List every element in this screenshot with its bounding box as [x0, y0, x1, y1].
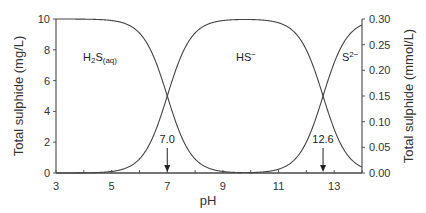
curve-h2s: [56, 19, 362, 173]
x-axis-title: pH: [200, 193, 217, 208]
y2-tick-label: 0.15: [369, 90, 390, 102]
y2-tick-label: 0.30: [369, 13, 390, 25]
curve-hs: [56, 19, 362, 172]
y2-tick-label: 0.25: [369, 39, 390, 51]
y-tick-label: 0: [44, 167, 50, 179]
y-tick-label: 8: [44, 44, 50, 56]
y2-tick-label: 0.10: [369, 116, 390, 128]
axes: 02468100.000.050.100.150.200.250.3035791…: [38, 13, 391, 192]
y-tick-label: 6: [44, 75, 50, 87]
y-tick-label: 2: [44, 136, 50, 148]
curves: [56, 19, 362, 173]
label-s2: S2−: [342, 50, 359, 63]
label-h2s: H2S(aq): [83, 51, 117, 65]
y2-tick-label: 0.00: [369, 167, 390, 179]
x-tick-label: 3: [53, 180, 59, 192]
y-axis-title: Total sulphide (mg/L): [11, 36, 26, 157]
x-tick-label: 7: [164, 180, 170, 192]
x-tick-label: 5: [109, 180, 115, 192]
x-tick-label: 13: [328, 180, 340, 192]
y-tick-label: 4: [44, 105, 50, 117]
y2-tick-label: 0.20: [369, 64, 390, 76]
pka1-label: 7.0: [160, 133, 175, 145]
y2-axis-title: Total sulphide (mmol/L): [401, 29, 416, 163]
speciation-chart: 02468100.000.050.100.150.200.250.3035791…: [0, 0, 426, 213]
y2-tick-label: 0.05: [369, 141, 390, 153]
x-tick-label: 9: [220, 180, 226, 192]
pka2-label: 12.6: [312, 133, 333, 145]
curve-s2: [56, 25, 362, 173]
arrow-down-icon: [164, 165, 170, 172]
label-hs: HS−: [236, 50, 256, 63]
x-tick-label: 11: [273, 180, 284, 192]
arrow-down-icon: [320, 165, 326, 172]
y-tick-label: 10: [38, 13, 50, 25]
